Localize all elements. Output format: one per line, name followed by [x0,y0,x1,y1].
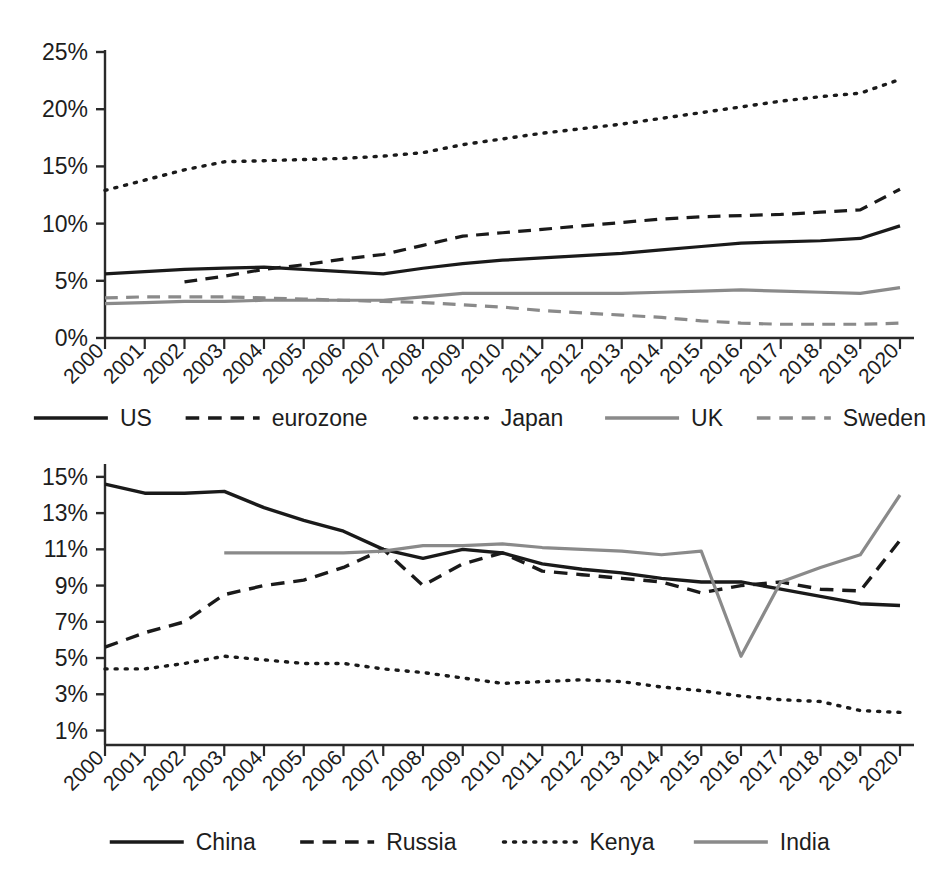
legend-label-kenya: Kenya [589,829,654,855]
y-tick-label: 20% [42,96,88,122]
y-tick-label: 15% [42,153,88,179]
chart-panel-emerging: 1%3%5%7%9%11%13%15%200020012002200320042… [0,450,938,885]
y-tick-label: 25% [42,39,88,65]
legend-label-us: US [120,405,152,431]
series-line-japan [105,79,900,190]
y-tick-label: 13% [42,500,88,526]
legend-label-japan: Japan [501,405,564,431]
y-tick-label: 1% [55,718,88,744]
y-tick-label: 3% [55,681,88,707]
y-tick-label: 15% [42,464,88,490]
line-chart-emerging-economies: 1%3%5%7%9%11%13%15%200020012002200320042… [0,450,938,885]
legend-label-eurozone: eurozone [272,405,368,431]
legend-label-china: China [196,829,256,855]
y-tick-label: 5% [55,268,88,294]
y-tick-label: 5% [55,645,88,671]
line-chart-advanced-economies: 0%5%10%15%20%25%200020012002200320042005… [0,0,938,450]
x-tick-label: 2011 [497,746,545,794]
series-line-russia [105,540,900,647]
x-tick-label: 2000 [59,746,108,795]
y-tick-label: 9% [55,573,88,599]
legend-label-uk: UK [691,405,724,431]
y-tick-label: 11% [44,536,88,562]
chart-panel-advanced: 0%5%10%15%20%25%200020012002200320042005… [0,0,938,450]
x-tick-label: 2011 [497,339,545,387]
legend-label-sweden: Sweden [843,405,926,431]
series-line-uk [105,288,900,304]
legend-label-russia: Russia [386,829,457,855]
chart-page: 0%5%10%15%20%25%200020012002200320042005… [0,0,938,885]
series-line-india [224,495,900,656]
y-tick-label: 10% [42,211,88,237]
legend-label-india: India [780,829,830,855]
series-line-kenya [105,656,900,712]
y-tick-label: 7% [55,609,88,635]
